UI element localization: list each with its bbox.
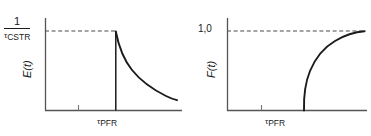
- figure-root: 1 τCSTR E(t) τPFR 1,0 F(t) τPFR: [0, 0, 371, 136]
- y-axis-title-e-of-t: E(t): [22, 60, 33, 78]
- y-tick-label-one-comma-zero: 1,0: [198, 24, 212, 34]
- tau-subscript-pfr: PFR: [100, 118, 117, 128]
- tau-subscript-pfr: PFR: [268, 118, 285, 128]
- e-of-t-decay-curve: [116, 32, 177, 101]
- fraction-denominator: τCSTR: [4, 29, 30, 43]
- y-tick-label-one-over-tau-cstr: 1 τCSTR: [4, 16, 30, 43]
- exit-age-distribution-plot: 1 τCSTR E(t) τPFR: [0, 0, 186, 136]
- f-of-t-rising-curve: [304, 31, 365, 110]
- x-axis-title-tau-pfr: τPFR: [97, 118, 117, 128]
- x-axis-title-tau-pfr: τPFR: [265, 118, 285, 128]
- y-axis-title-f-of-t: F(t): [206, 61, 217, 78]
- tau-subscript-cstr: CSTR: [7, 32, 30, 42]
- cumulative-distribution-plot: 1,0 F(t) τPFR: [186, 0, 371, 136]
- fraction-numerator: 1: [4, 16, 30, 29]
